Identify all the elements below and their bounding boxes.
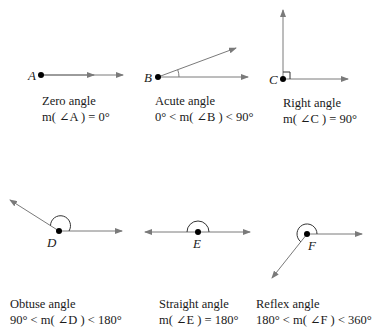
caption-straight-angle: Straight angle m( ∠E ) = 180° [159, 296, 238, 328]
caption-formula: m( ∠C ) = 90° [283, 111, 357, 127]
caption-formula: m( ∠A ) = 0° [42, 109, 110, 125]
vertex-label-b: B [144, 70, 152, 85]
acute-angle-figure: B [144, 48, 248, 85]
vertex-c [280, 76, 286, 82]
vertex-f [304, 231, 310, 237]
caption-formula: m( ∠E ) = 180° [159, 312, 238, 328]
caption-title: Acute angle [155, 93, 253, 109]
vertex-e [195, 229, 201, 235]
vertex-b [155, 74, 161, 80]
caption-right-angle: Right angle m( ∠C ) = 90° [283, 95, 357, 127]
vertex-label-d: D [46, 235, 57, 250]
straight-angle-figure: E [145, 221, 250, 251]
caption-acute-angle: Acute angle 0° < m( ∠B ) < 90° [155, 93, 253, 125]
caption-obtuse-angle: Obtuse angle 90° < m( ∠D ) < 180° [10, 296, 122, 328]
angle-arc [178, 70, 179, 77]
caption-zero-angle: Zero angle m( ∠A ) = 0° [42, 93, 110, 125]
vertex-a [38, 72, 44, 78]
caption-reflex-angle: Reflex angle 180° < m( ∠F ) < 360° [256, 296, 372, 328]
zero-angle-figure: A [27, 68, 123, 83]
obtuse-angle-figure: D [10, 200, 122, 250]
caption-title: Reflex angle [256, 296, 372, 312]
right-angle-figure: C [269, 10, 348, 87]
caption-title: Right angle [283, 95, 357, 111]
reflex-angle-figure: F [272, 224, 362, 278]
vertex-d [56, 228, 62, 234]
vertex-label-a: A [27, 68, 36, 83]
vertex-label-f: F [307, 238, 317, 253]
caption-title: Straight angle [159, 296, 238, 312]
caption-title: Zero angle [42, 93, 110, 109]
vertex-label-e: E [192, 236, 201, 251]
caption-formula: 180° < m( ∠F ) < 360° [256, 312, 372, 328]
caption-formula: 0° < m( ∠B ) < 90° [155, 109, 253, 125]
caption-title: Obtuse angle [10, 296, 122, 312]
caption-formula: 90° < m( ∠D ) < 180° [10, 312, 122, 328]
vertex-label-c: C [269, 72, 278, 87]
